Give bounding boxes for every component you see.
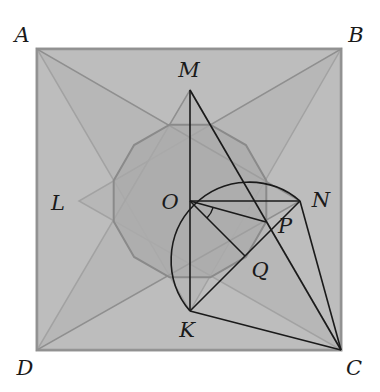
label-P: P: [278, 216, 292, 237]
label-Q: Q: [251, 260, 268, 281]
label-N: N: [312, 190, 330, 211]
label-B: B: [348, 25, 363, 46]
label-K: K: [179, 320, 195, 341]
label-L: L: [51, 193, 65, 214]
label-A: A: [14, 25, 29, 46]
label-D: D: [17, 358, 34, 379]
label-C: C: [346, 358, 362, 379]
label-O: O: [161, 192, 178, 213]
label-M: M: [178, 60, 200, 81]
